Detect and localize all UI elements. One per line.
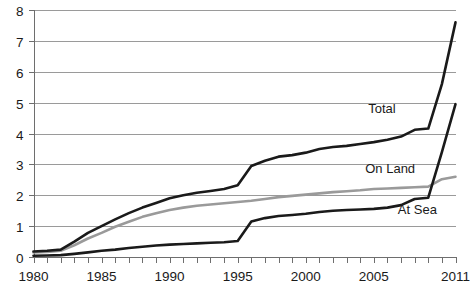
y-axis-tick-marks (29, 11, 34, 258)
y-tick-label-1: 1 (16, 220, 24, 235)
x-tick-label-1995: 1995 (223, 269, 253, 284)
series-label-on-land: On Land (365, 161, 415, 176)
y-tick-label-5: 5 (16, 97, 24, 112)
x-tick-label-1990: 1990 (155, 269, 185, 284)
series-label-at-sea: At Sea (398, 202, 438, 217)
y-axis-tick-labels: 012345678 (16, 4, 24, 266)
series-line-total (34, 22, 456, 251)
x-tick-label-1980: 1980 (18, 269, 48, 284)
series-labels: TotalOn LandAt Sea (365, 101, 437, 217)
y-tick-label-0: 0 (16, 251, 24, 266)
x-axis-tick-labels: 1980198519901995200020052011 (18, 269, 470, 284)
series-label-total: Total (368, 101, 396, 116)
x-tick-label-1985: 1985 (87, 269, 117, 284)
y-tick-label-3: 3 (16, 158, 24, 173)
x-tick-label-2005: 2005 (359, 269, 389, 284)
chart-canvas: 012345678 1980198519901995200020052011 T… (0, 0, 472, 294)
axes (34, 10, 456, 258)
x-tick-label-2011: 2011 (441, 269, 470, 284)
data-series (34, 22, 456, 255)
y-tick-label-2: 2 (16, 189, 24, 204)
gridlines (34, 11, 456, 258)
series-line-on-land (34, 177, 456, 253)
series-line-at-sea (34, 104, 456, 256)
y-tick-label-7: 7 (16, 35, 24, 50)
x-tick-label-2000: 2000 (291, 269, 321, 284)
y-tick-label-6: 6 (16, 66, 24, 81)
y-tick-label-4: 4 (16, 128, 24, 143)
line-chart: 012345678 1980198519901995200020052011 T… (0, 0, 472, 294)
y-tick-label-8: 8 (16, 4, 24, 19)
